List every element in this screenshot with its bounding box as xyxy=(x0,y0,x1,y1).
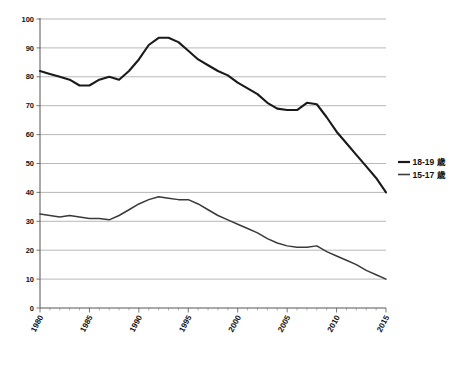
x-tick-label: 2010 xyxy=(326,313,343,333)
legend-label-1: 18-19 歳 xyxy=(413,157,446,167)
x-axis-ticks xyxy=(40,308,386,313)
y-tick-label: 30 xyxy=(26,217,34,226)
y-tick-label: 70 xyxy=(26,101,34,110)
legend-label-2: 15-17 歳 xyxy=(413,170,446,180)
y-axis-tick-labels: 0102030405060708090100 xyxy=(21,15,34,313)
x-tick-label: 1995 xyxy=(177,313,194,333)
y-tick-label: 40 xyxy=(26,188,34,197)
y-tick-label: 80 xyxy=(26,72,34,81)
y-tick-label: 100 xyxy=(21,15,34,24)
series-line-1 xyxy=(40,38,386,193)
line-chart: 0102030405060708090100 19801985199019952… xyxy=(0,0,457,366)
y-tick-label: 50 xyxy=(26,159,34,168)
y-tick-label: 90 xyxy=(26,44,34,53)
y-tick-label: 60 xyxy=(26,130,34,139)
x-tick-label: 1985 xyxy=(78,313,95,333)
chart-container: 0102030405060708090100 19801985199019952… xyxy=(0,0,457,366)
y-tick-label: 20 xyxy=(26,246,34,255)
x-tick-label: 1990 xyxy=(128,313,145,333)
gridlines xyxy=(40,19,386,279)
data-series-group xyxy=(40,38,386,279)
x-tick-label: 2000 xyxy=(227,313,244,333)
x-tick-label: 1980 xyxy=(29,313,46,333)
y-axis-ticks xyxy=(37,19,41,308)
y-tick-label: 10 xyxy=(26,275,34,284)
x-tick-label: 2005 xyxy=(276,313,293,333)
y-tick-label: 0 xyxy=(30,304,34,313)
chart-legend: 18-19 歳15-17 歳 xyxy=(398,157,446,180)
series-line-2 xyxy=(40,197,386,279)
x-axis-tick-labels: 19801985199019952000200520102015 xyxy=(29,313,392,333)
x-tick-label: 2015 xyxy=(375,313,392,333)
